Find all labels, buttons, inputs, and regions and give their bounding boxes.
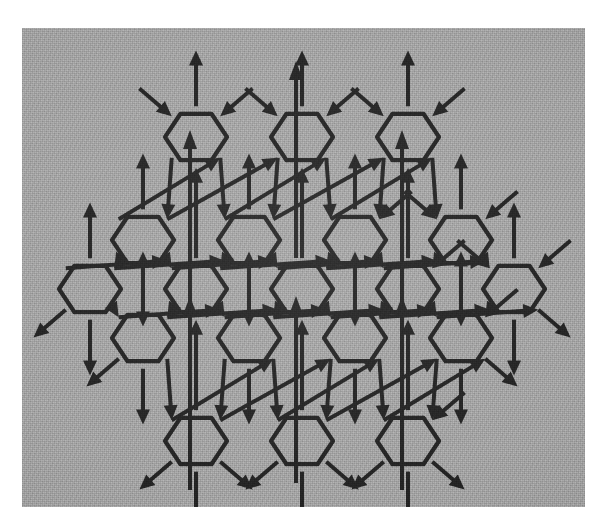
boundary-arrow-in: [351, 88, 383, 116]
boundary-arrow-out: [507, 320, 521, 376]
hexagon-cell[interactable]: [377, 266, 439, 312]
boundary-arrow-out: [139, 462, 171, 490]
boundary-arrow-out: [136, 252, 150, 308]
boundary-arrow-out: [245, 462, 277, 490]
boundary-arrow-out: [136, 369, 150, 425]
hexagon-cell[interactable]: [271, 266, 333, 312]
boundary-arrow-out: [538, 310, 570, 338]
boundary-arrow-out: [454, 252, 468, 308]
boundary-arrow-out: [351, 462, 383, 490]
coupling-arrow: [164, 359, 178, 420]
boundary-arrow-out: [432, 462, 464, 490]
boundary-arrow-out: [454, 154, 468, 210]
hexagon-cell[interactable]: [483, 266, 545, 312]
hexagon-layer: [59, 114, 545, 464]
boundary-arrow-in: [139, 88, 171, 116]
figure-root: Hexagonal lattice network with directed …: [0, 0, 605, 526]
boundary-arrow-out: [242, 252, 256, 308]
hexagon-cell[interactable]: [165, 114, 227, 160]
boundary-arrow-out: [189, 51, 203, 107]
hexagon-cell[interactable]: [271, 114, 333, 160]
boundary-arrow-out: [401, 51, 415, 107]
boundary-arrow-in: [538, 240, 570, 268]
boundary-arrow-out: [33, 310, 65, 338]
boundary-arrow-out: [83, 203, 97, 259]
boundary-arrow-out: [507, 203, 521, 259]
hexagon-cell[interactable]: [59, 266, 121, 312]
hexagon-cell[interactable]: [165, 418, 227, 464]
boundary-arrow-out: [83, 320, 97, 376]
hexagon-lattice-svg: [22, 28, 585, 507]
boundary-arrow-in: [245, 88, 277, 116]
hexagon-cell[interactable]: [271, 418, 333, 464]
boundary-arrow-in: [432, 88, 464, 116]
boundary-arrow-out: [348, 252, 362, 308]
image-plate: [22, 28, 585, 507]
hexagon-cell[interactable]: [377, 418, 439, 464]
hexagon-cell[interactable]: [165, 266, 227, 312]
hexagon-cell[interactable]: [377, 114, 439, 160]
